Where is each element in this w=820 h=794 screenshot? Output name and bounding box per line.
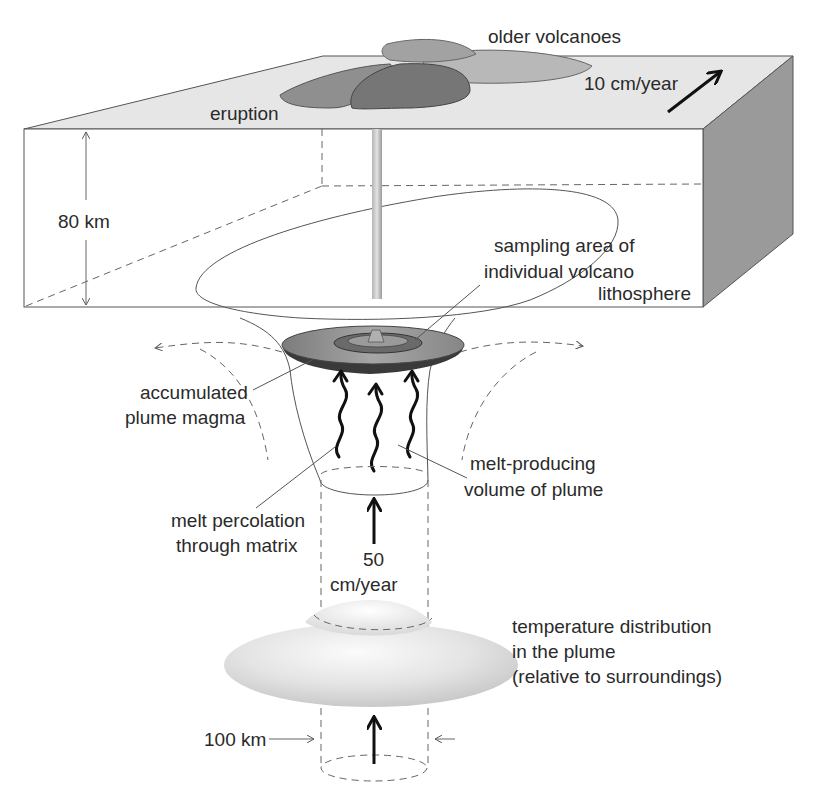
accumulated-magma-label-2: plume magma [125, 407, 246, 428]
accumulated-magma-disk [282, 326, 464, 374]
leader-accumulated [253, 360, 312, 390]
melt-percolation-arrows [334, 371, 418, 471]
eruption-label: eruption [210, 103, 279, 124]
sampling-area-label-2: individual volcano [484, 261, 634, 282]
percolation-label-1: melt percolation [171, 510, 305, 531]
magma-conduit [372, 129, 382, 299]
plume-speed-value-label: 50 [363, 549, 384, 570]
sampling-area-label-1: sampling area of [494, 235, 635, 256]
lithosphere-thickness-label: 80 km [58, 211, 110, 232]
accumulated-magma-label-1: accumulated [140, 382, 248, 403]
older-volcano-back [382, 39, 476, 62]
flow-arrow-right [460, 342, 583, 352]
temperature-label-2: in the plume [512, 641, 616, 662]
leader-percolation [256, 447, 335, 508]
melt-producing-label-1: melt-producing [470, 453, 596, 474]
flow-arrow-right-down [462, 352, 536, 460]
wavy-arrow-left [336, 372, 346, 457]
temperature-label-3: (relative to surroundings) [512, 666, 722, 687]
wavy-arrow-right [407, 372, 417, 457]
plume-width-label: 100 km [204, 729, 266, 750]
plume-diagram: older volcanoes eruption 10 cm/year 80 k… [0, 0, 820, 794]
lithosphere-label: lithosphere [598, 283, 691, 304]
leader-melt-producing [398, 445, 467, 478]
percolation-label-2: through matrix [176, 535, 298, 556]
flow-arrow-left [155, 342, 282, 352]
temperature-label-1: temperature distribution [512, 616, 712, 637]
plume-speed-unit-label: cm/year [330, 574, 398, 595]
flow-arrow-left-down [200, 349, 268, 460]
melt-producing-label-2: volume of plume [464, 479, 603, 500]
older-volcanoes-label: older volcanoes [488, 26, 621, 47]
wavy-arrow-middle [371, 385, 381, 471]
plate-speed-label: 10 cm/year [584, 73, 679, 94]
temperature-distribution [224, 600, 518, 707]
